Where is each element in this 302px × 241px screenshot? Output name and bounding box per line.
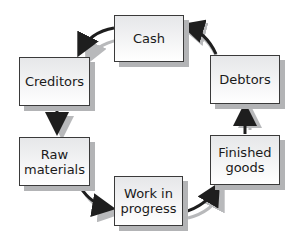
node-debtors: Debtors bbox=[210, 55, 280, 104]
node-creditors-label: Creditors bbox=[25, 74, 84, 89]
node-raw-materials-label: Raw materials bbox=[24, 147, 85, 177]
node-creditors: Creditors bbox=[19, 57, 90, 106]
node-work-in-progress: Work in progress bbox=[114, 176, 183, 226]
node-cash: Cash bbox=[114, 15, 184, 62]
node-finished-goods: Finished goods bbox=[210, 135, 280, 185]
node-cash-label: Cash bbox=[133, 31, 165, 46]
node-finished-goods-label: Finished goods bbox=[218, 145, 271, 175]
node-work-in-progress-label: Work in progress bbox=[120, 186, 176, 216]
node-debtors-label: Debtors bbox=[219, 72, 270, 87]
node-raw-materials: Raw materials bbox=[19, 137, 90, 186]
